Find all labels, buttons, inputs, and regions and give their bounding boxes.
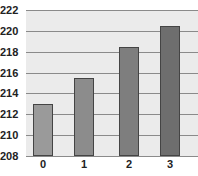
bar-0 bbox=[33, 104, 53, 156]
bar-2 bbox=[119, 47, 139, 157]
y-tick-label: 218 bbox=[0, 46, 24, 58]
y-tick-label: 220 bbox=[0, 25, 24, 37]
x-tick-label: 0 bbox=[33, 158, 53, 170]
x-tick-label: 1 bbox=[74, 158, 94, 170]
y-tick-label: 208 bbox=[0, 150, 24, 162]
gridline bbox=[26, 10, 198, 11]
bar-3 bbox=[160, 26, 180, 156]
y-tick-label: 222 bbox=[0, 4, 24, 16]
y-tick-label: 212 bbox=[0, 108, 24, 120]
y-tick-label: 210 bbox=[0, 129, 24, 141]
x-tick-label: 3 bbox=[160, 158, 180, 170]
gridline bbox=[26, 156, 198, 157]
y-tick-label: 216 bbox=[0, 67, 24, 79]
bar-1 bbox=[74, 78, 94, 156]
plot-area bbox=[26, 10, 198, 156]
y-tick-label: 214 bbox=[0, 87, 24, 99]
x-tick-label: 2 bbox=[119, 158, 139, 170]
